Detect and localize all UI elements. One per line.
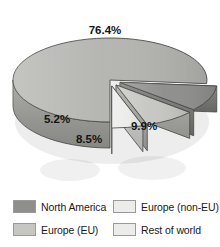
data-label-rest-of-world: 76.4% (89, 24, 122, 36)
legend-label-europe-eu: Europe (EU) (41, 224, 98, 236)
pie-chart-plot-area: 76.4% 9.9% 8.5% 5.2% (0, 0, 220, 192)
legend-swatch-north-america (13, 200, 36, 213)
legend-item-north-america[interactable]: North America (13, 196, 108, 217)
exploded-slice-shadow-left (40, 159, 100, 181)
pie-chart-figure: 76.4% 9.9% 8.5% 5.2% North America Europ… (0, 0, 220, 247)
legend-label-rest-of-world: Rest of world (141, 224, 201, 236)
data-label-north-america: 9.9% (131, 120, 157, 132)
legend-label-north-america: North America (41, 201, 106, 213)
legend-swatch-europe-non-eu (113, 200, 136, 213)
legend-item-rest-of-world[interactable]: Rest of world (113, 219, 208, 240)
legend-swatch-europe-eu (13, 223, 36, 236)
data-label-europe-eu: 8.5% (76, 133, 102, 145)
legend-item-europe-non-eu[interactable]: Europe (non-EU) (113, 196, 208, 217)
data-label-europe-non-eu: 5.2% (44, 113, 70, 125)
legend-swatch-rest-of-world (113, 223, 136, 236)
legend-item-europe-eu[interactable]: Europe (EU) (13, 219, 108, 240)
pie-chart-svg: 76.4% 9.9% 8.5% 5.2% (0, 0, 220, 192)
chart-legend: North America Europe (non-EU) Europe (EU… (13, 196, 213, 240)
legend-label-europe-non-eu: Europe (non-EU) (141, 201, 219, 213)
exploded-slice-shadow-right (118, 156, 186, 180)
